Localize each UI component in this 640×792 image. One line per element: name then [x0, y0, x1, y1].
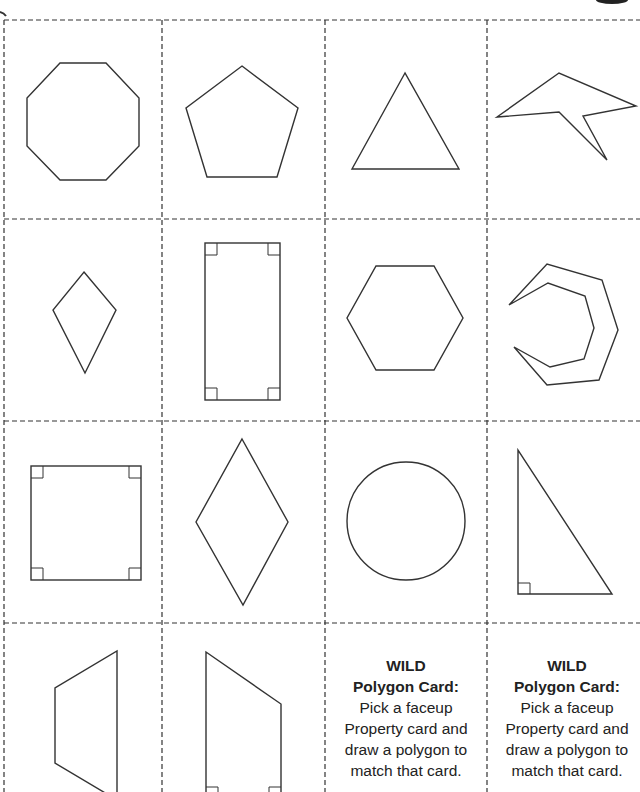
wild-body-line: match that card. [492, 760, 640, 781]
wild-subtitle: Polygon Card: [492, 676, 640, 697]
edge-fragment [0, 12, 6, 16]
hexagon-shape [347, 266, 463, 370]
trapezoid-shape [55, 651, 117, 792]
square-shape [31, 466, 141, 580]
wild-body-line: draw a polygon to [331, 739, 481, 760]
wild-title: WILD [492, 655, 640, 676]
concave-polygon-shape [497, 73, 636, 160]
wild-subtitle: Polygon Card: [331, 676, 481, 697]
wild-body-line: Property card and [492, 718, 640, 739]
rhombus-shape [196, 439, 288, 605]
right-triangle-shape [518, 450, 612, 594]
kite-shape [53, 272, 116, 373]
triangle-shape [352, 73, 459, 169]
wild-card-1: WILD Polygon Card: Pick a faceup Propert… [331, 655, 481, 781]
octagon-shape [27, 63, 139, 180]
wild-body-line: draw a polygon to [492, 739, 640, 760]
wild-title: WILD [331, 655, 481, 676]
circle-shape [347, 462, 465, 580]
crescent-polygon-shape [509, 264, 618, 385]
wild-body-line: Pick a faceup [492, 697, 640, 718]
wild-body-line: Property card and [331, 718, 481, 739]
right-trapezoid-shape [206, 652, 281, 792]
wild-card-2: WILD Polygon Card: Pick a faceup Propert… [492, 655, 640, 781]
pentagon-shape [186, 66, 298, 177]
rectangle-shape [205, 243, 280, 400]
wild-body-line: match that card. [331, 760, 481, 781]
edge-fragment [596, 0, 628, 4]
wild-body-line: Pick a faceup [331, 697, 481, 718]
